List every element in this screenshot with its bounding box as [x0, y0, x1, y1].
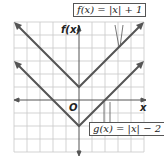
f-function-label: f(x) = |x| + 1: [73, 3, 146, 17]
g-function-label: g(x) = |x| − 2: [89, 122, 164, 136]
origin-label: O: [69, 102, 78, 113]
coordinate-plane: [0, 0, 164, 164]
y-axis-label: f(x): [61, 24, 81, 35]
leader-lines: [104, 25, 123, 122]
axes: [14, 26, 146, 156]
x-axis-label: x: [140, 102, 146, 113]
